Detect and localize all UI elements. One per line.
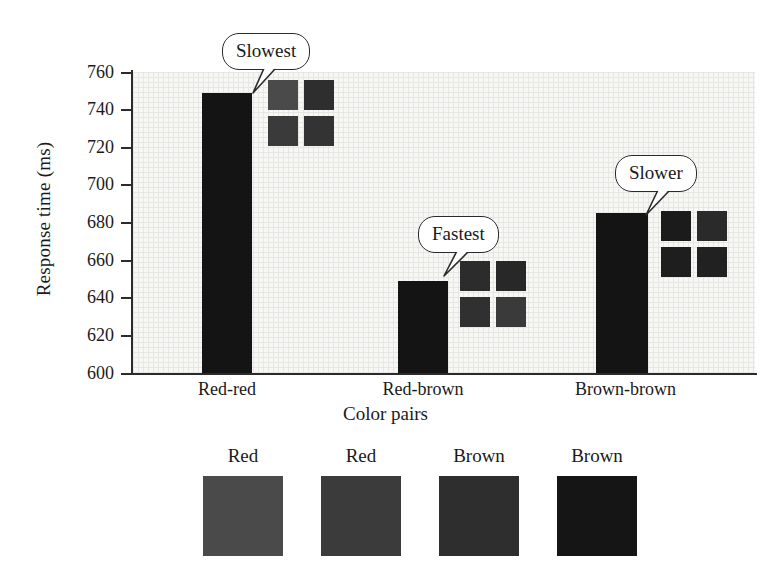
- x-axis-line: [131, 373, 757, 375]
- swatch-cell-bottom-right: [697, 247, 727, 277]
- legend-swatch-2: [439, 476, 519, 556]
- legend-item-3: Brown: [542, 444, 652, 556]
- callout-slowest-tail-icon: [222, 33, 342, 95]
- y-tick-label-760: 760: [56, 63, 114, 81]
- bar-red-brown: [398, 281, 448, 373]
- legend-swatch-1: [321, 476, 401, 556]
- swatch-cell-bottom-right: [304, 116, 334, 146]
- y-tick-mark-640: [121, 297, 132, 299]
- y-tick-label-620: 620: [56, 326, 114, 344]
- y-tick-mark-700: [121, 184, 132, 186]
- y-tick-label-680: 680: [56, 213, 114, 231]
- swatch-cell-bottom-left: [661, 247, 691, 277]
- y-tick-label-640: 640: [56, 288, 114, 306]
- bar-red-red: [202, 93, 252, 373]
- x-axis-title: Color pairs: [0, 403, 771, 425]
- x-tick-label-red-brown: Red-brown: [353, 379, 493, 400]
- stimulus-swatch-grid-brown-brown: [661, 211, 727, 277]
- legend-label-3: Brown: [542, 444, 652, 468]
- x-tick-label-red-red: Red-red: [157, 379, 297, 400]
- swatch-cell-bottom-left: [268, 116, 298, 146]
- legend-swatch-3: [557, 476, 637, 556]
- y-tick-mark-760: [121, 72, 132, 74]
- legend-label-2: Brown: [424, 444, 534, 468]
- y-tick-label-600: 600: [56, 364, 114, 382]
- swatch-cell-bottom-left: [460, 297, 490, 327]
- bar-brown-brown: [596, 213, 648, 373]
- legend-item-2: Brown: [424, 444, 534, 556]
- callout-fastest: Fastest: [418, 216, 538, 278]
- y-tick-label-740: 740: [56, 100, 114, 118]
- y-tick-label-720: 720: [56, 138, 114, 156]
- response-time-bar-chart: Response time (ms) 760 740 720 700 680 6…: [0, 0, 771, 587]
- y-tick-mark-680: [121, 222, 132, 224]
- legend-item-0: Red: [188, 444, 298, 556]
- y-tick-mark-660: [121, 260, 132, 262]
- y-tick-mark-600: [121, 373, 132, 375]
- y-tick-mark-720: [121, 147, 132, 149]
- legend-swatch-0: [203, 476, 283, 556]
- callout-slowest: Slowest: [222, 33, 342, 95]
- x-tick-label-brown-brown: Brown-brown: [548, 379, 703, 400]
- y-axis-title: Response time (ms): [33, 89, 55, 349]
- legend-label-0: Red: [188, 444, 298, 468]
- legend-label-1: Red: [306, 444, 416, 468]
- y-tick-mark-620: [121, 335, 132, 337]
- callout-fastest-tail-icon: [418, 216, 538, 278]
- y-tick-label-660: 660: [56, 251, 114, 269]
- y-tick-label-700: 700: [56, 175, 114, 193]
- legend-item-1: Red: [306, 444, 416, 556]
- swatch-cell-bottom-right: [496, 297, 526, 327]
- callout-slower-tail-icon: [615, 155, 735, 217]
- callout-slower: Slower: [615, 155, 735, 217]
- y-tick-mark-740: [121, 109, 132, 111]
